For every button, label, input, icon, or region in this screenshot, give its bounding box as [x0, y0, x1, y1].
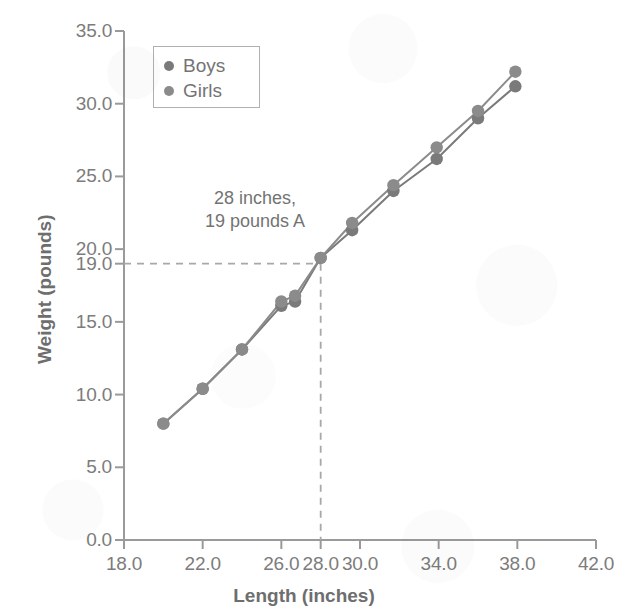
y-axis-title: Weight (pounds) [34, 214, 56, 364]
data-point-girls [472, 105, 484, 117]
legend-marker-boys-icon [164, 61, 174, 71]
legend-label-girls: Girls [183, 81, 222, 100]
x-tick-label: 30.0 [328, 553, 392, 575]
data-series-layer [157, 66, 521, 430]
data-point-girls [431, 141, 443, 153]
data-point-boys [431, 153, 443, 165]
legend-label-boys: Boys [183, 56, 225, 75]
y-tick-label: 0.0 [26, 529, 112, 551]
data-point-girls [236, 343, 248, 355]
annotation-line-2: 19 pounds A [180, 210, 330, 233]
chart-legend: Boys Girls [153, 46, 260, 108]
point-annotation: 28 inches, 19 pounds A [180, 187, 330, 233]
x-tick-label: 22.0 [171, 553, 235, 575]
data-point-boys [509, 80, 521, 92]
x-tick-label: 42.0 [564, 553, 619, 575]
x-axis-title: Length (inches) [0, 585, 608, 607]
data-point-girls [196, 383, 208, 395]
legend-marker-girls-icon [164, 86, 174, 96]
x-tick-label: 38.0 [485, 553, 549, 575]
data-point-girls [509, 66, 521, 78]
y-tick-label: 30.0 [26, 93, 112, 115]
series-line-boys [163, 86, 515, 423]
x-tick-label: 18.0 [92, 553, 156, 575]
data-point-girls [387, 179, 399, 191]
x-tick-marks [124, 540, 596, 549]
data-point-girls [157, 417, 169, 429]
y-tick-label: 35.0 [26, 20, 112, 42]
y-tick-marks [115, 31, 124, 540]
y-tick-label: 25.0 [26, 165, 112, 187]
legend-entry-girls: Girls [164, 78, 259, 103]
series-line-girls [163, 72, 515, 424]
y-tick-label: 5.0 [26, 456, 112, 478]
data-point-girls [314, 252, 326, 264]
legend-entry-boys: Boys [164, 53, 259, 78]
data-point-girls [346, 217, 358, 229]
x-tick-label: 34.0 [407, 553, 471, 575]
y-tick-label: 10.0 [26, 384, 112, 406]
annotation-line-1: 28 inches, [180, 187, 330, 210]
data-point-girls [289, 289, 301, 301]
data-point-girls [275, 295, 287, 307]
